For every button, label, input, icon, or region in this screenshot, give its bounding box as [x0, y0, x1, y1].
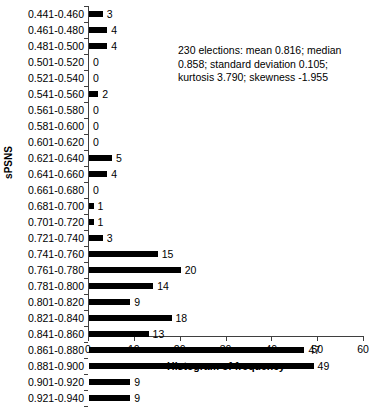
x-tick-label: 40: [251, 343, 291, 355]
bar-category-label: 0.621-0.640: [0, 150, 84, 166]
bar-value-label: 3: [107, 6, 113, 22]
bar-value-label: 4: [111, 166, 117, 182]
y-tick-mark: [84, 86, 88, 87]
bar: [89, 11, 103, 17]
bar-wrapper: 3: [89, 6, 375, 22]
bar-category-label: 0.881-0.900: [0, 358, 84, 374]
bar-value-label: 18: [176, 310, 188, 326]
y-tick-mark: [84, 182, 88, 183]
bar: [89, 27, 107, 33]
bar-row: 0.441-0.4603: [0, 6, 375, 22]
bar-wrapper: 0: [89, 182, 375, 198]
y-tick-mark: [84, 358, 88, 359]
bar-wrapper: 13: [89, 326, 375, 342]
bar: [89, 43, 107, 49]
bar-row: 0.761-0.78020: [0, 262, 375, 278]
bar-category-label: 0.721-0.740: [0, 230, 84, 246]
bar: [89, 235, 103, 241]
x-tick-label: 20: [160, 343, 200, 355]
bar-category-label: 0.741-0.760: [0, 246, 84, 262]
bar-row: 0.781-0.80014: [0, 278, 375, 294]
bar-value-label: 14: [157, 278, 169, 294]
bar-wrapper: 2: [89, 86, 375, 102]
bar-row: 0.561-0.5800: [0, 102, 375, 118]
bar-value-label: 20: [185, 262, 197, 278]
bar-row: 0.721-0.7403: [0, 230, 375, 246]
bar-value-label: 4: [111, 38, 117, 54]
bar-category-label: 0.661-0.680: [0, 182, 84, 198]
y-tick-mark: [84, 22, 88, 23]
x-tick-mark: [317, 337, 318, 341]
y-tick-mark: [84, 214, 88, 215]
bar-value-label: 2: [102, 86, 108, 102]
bar: [89, 331, 149, 337]
bar-category-label: 0.701-0.720: [0, 214, 84, 230]
bar-category-label: 0.681-0.700: [0, 198, 84, 214]
bar-wrapper: 0: [89, 118, 375, 134]
bar-category-label: 0.781-0.800: [0, 278, 84, 294]
y-tick-mark: [84, 38, 88, 39]
bar: [89, 171, 107, 177]
bar-row: 0.641-0.6604: [0, 166, 375, 182]
x-tick-label: 0: [68, 343, 108, 355]
bar-value-label: 0: [93, 102, 99, 118]
x-tick-label: 50: [297, 343, 337, 355]
x-tick-mark: [363, 337, 364, 341]
bar-category-label: 0.921-0.940: [0, 390, 84, 406]
y-tick-mark: [84, 374, 88, 375]
bar: [89, 155, 112, 161]
y-tick-mark: [84, 118, 88, 119]
bar-category-label: 0.821-0.840: [0, 310, 84, 326]
bar: [89, 299, 130, 305]
bar-wrapper: 5: [89, 150, 375, 166]
y-tick-mark: [84, 166, 88, 167]
x-axis-title: Histogram of frequency: [88, 360, 364, 372]
bar-value-label: 4: [111, 22, 117, 38]
bar-wrapper: 9: [89, 374, 375, 390]
bar-value-label: 0: [93, 182, 99, 198]
bar: [89, 251, 158, 257]
bar: [89, 203, 94, 209]
bar-wrapper: 4: [89, 166, 375, 182]
y-tick-mark: [84, 310, 88, 311]
bar-row: 0.901-0.9209: [0, 374, 375, 390]
bar-wrapper: 0: [89, 134, 375, 150]
bar-wrapper: 3: [89, 230, 375, 246]
bar-category-label: 0.841-0.860: [0, 326, 84, 342]
bar-value-label: 1: [98, 214, 104, 230]
bar-category-label: 0.561-0.580: [0, 102, 84, 118]
bar: [89, 283, 153, 289]
bar-category-label: 0.581-0.600: [0, 118, 84, 134]
bar-wrapper: 20: [89, 262, 375, 278]
x-tick-mark: [88, 337, 89, 341]
x-tick-mark: [271, 337, 272, 341]
bar-wrapper: 0: [89, 102, 375, 118]
bar-row: 0.801-0.8209: [0, 294, 375, 310]
y-tick-mark: [84, 246, 88, 247]
x-tick-label: 10: [114, 343, 154, 355]
y-tick-mark: [84, 390, 88, 391]
y-tick-mark: [84, 102, 88, 103]
bar-wrapper: 4: [89, 22, 375, 38]
bar-row: 0.601-0.6200: [0, 134, 375, 150]
x-tick-mark: [180, 337, 181, 341]
bar-value-label: 9: [134, 390, 140, 406]
bar-category-label: 0.481-0.500: [0, 38, 84, 54]
y-tick-mark: [84, 262, 88, 263]
y-tick-mark: [84, 278, 88, 279]
bar-row: 0.841-0.86013: [0, 326, 375, 342]
bar: [89, 395, 130, 401]
bar-wrapper: 14: [89, 278, 375, 294]
bar-category-label: 0.521-0.540: [0, 70, 84, 86]
bar-row: 0.661-0.6800: [0, 182, 375, 198]
bar-category-label: 0.461-0.480: [0, 22, 84, 38]
bar-value-label: 9: [134, 374, 140, 390]
bar: [89, 315, 172, 321]
bar-row: 0.921-0.9409: [0, 390, 375, 406]
y-tick-mark: [84, 198, 88, 199]
y-tick-mark: [84, 54, 88, 55]
bar-value-label: 0: [93, 54, 99, 70]
y-tick-mark: [84, 70, 88, 71]
bar-row: 0.741-0.76015: [0, 246, 375, 262]
bar-row: 0.581-0.6000: [0, 118, 375, 134]
